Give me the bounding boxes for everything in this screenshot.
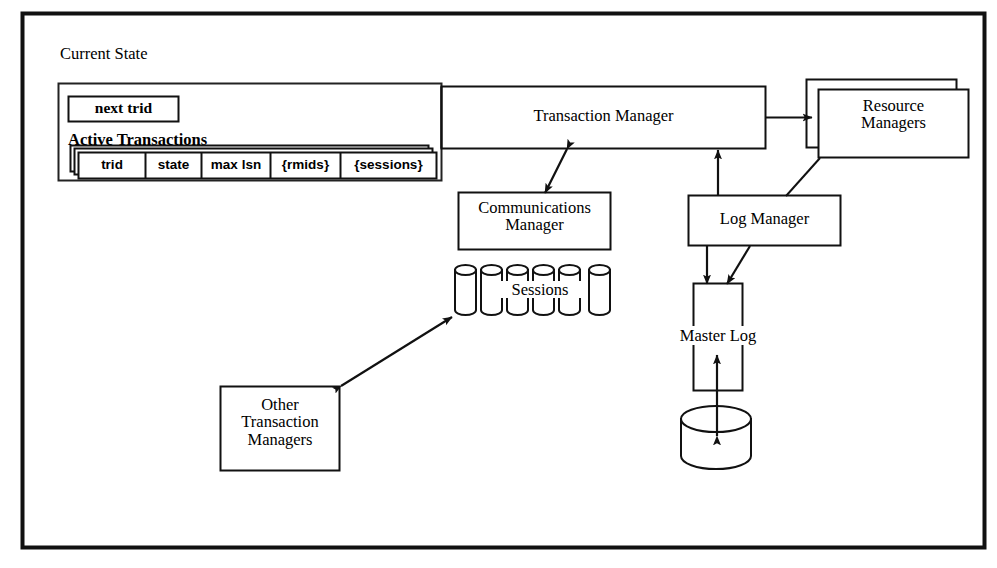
other-transaction-managers-box: [221, 387, 340, 471]
resource-managers-to-log-manager-line: [786, 158, 820, 196]
log-manager-box: [689, 196, 841, 246]
active-transactions-table: [71, 146, 437, 179]
diagram-vector-layer: [0, 0, 997, 568]
log-manager-to-master-log-arrows: [707, 246, 750, 284]
transaction-manager-communications-manager-arrow: [545, 149, 567, 193]
diagram-canvas: Current State next trid Active Transacti…: [0, 0, 997, 568]
other-transaction-managers-to-sessions-arrow: [341, 317, 452, 386]
next-trid-box: [69, 97, 179, 122]
transaction-manager-box: [442, 87, 766, 149]
sessions-cylinders: [455, 265, 610, 315]
resource-managers-box: [807, 80, 969, 158]
communications-manager-box: [459, 193, 611, 250]
